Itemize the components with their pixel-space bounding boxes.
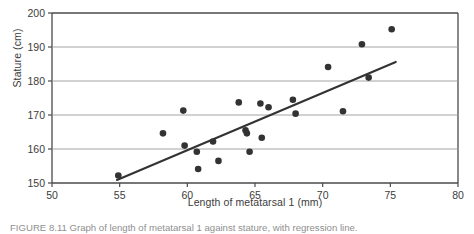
figure-container: 150160170180190200 50556065707580 Statur… — [0, 0, 474, 234]
svg-text:150: 150 — [27, 177, 45, 189]
svg-text:180: 180 — [27, 75, 45, 87]
svg-text:200: 200 — [27, 7, 45, 19]
svg-text:190: 190 — [27, 41, 45, 53]
y-axis-ticks: 150160170180190200 — [27, 7, 52, 189]
y-axis-label: Stature (cm) — [11, 3, 23, 113]
figure-caption: FIGURE 8.11 Graph of length of metatarsa… — [10, 222, 470, 234]
x-axis-label: Length of metatarsal 1 (mm) — [52, 196, 458, 208]
plot-svg: 150160170180190200 50556065707580 — [0, 0, 474, 212]
gridlines — [52, 47, 458, 149]
svg-text:170: 170 — [27, 109, 45, 121]
data-points — [115, 26, 395, 179]
scatter-chart: 150160170180190200 50556065707580 Statur… — [0, 0, 474, 212]
svg-text:160: 160 — [27, 143, 45, 155]
plot-frame — [52, 13, 458, 183]
regression-line — [117, 62, 396, 180]
